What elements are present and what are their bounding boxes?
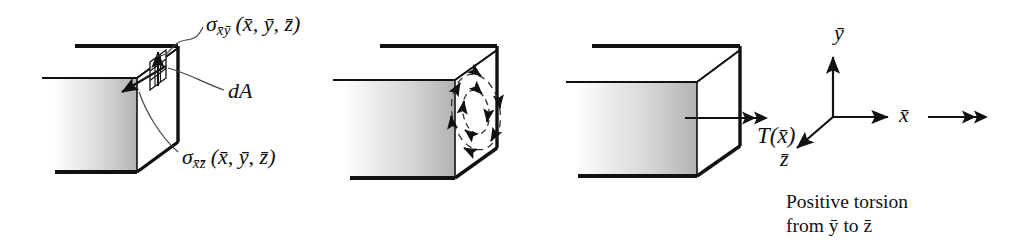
caption-line-1: Positive torsion <box>786 190 908 214</box>
sigma-xy-args: (x̄, ȳ, z̄) <box>236 11 301 36</box>
torque-symbol: T <box>757 123 770 148</box>
axis-label-z: z̄ <box>780 148 789 170</box>
sigma-xy-symbol: σ <box>206 11 217 36</box>
torque-args: (x̄) <box>770 123 796 148</box>
figure-canvas: σx̄ȳ(x̄, ȳ, z̄) dA σx̄z̄(x̄, ȳ, z̄) T… <box>0 0 1019 245</box>
bar-1-front-face <box>55 78 137 172</box>
bar-3-end-face <box>697 50 740 176</box>
axis-z <box>797 117 833 148</box>
label-dA: dA <box>228 80 252 102</box>
sigma-xy-subscript: x̄ȳ <box>217 22 231 38</box>
caption-line-2: from ȳ to z̄ <box>786 214 872 238</box>
bar-3-front-face <box>578 82 697 176</box>
sigma-xz-subscript: x̄z̄ <box>193 155 206 171</box>
sigma-xz-args: (x̄, ȳ, z̄) <box>211 144 276 169</box>
axis-label-x: x̄ <box>899 104 909 126</box>
label-torque: T(x̄) <box>757 124 795 147</box>
bar-3-group <box>566 46 768 176</box>
axis-torque-double-arrow <box>928 111 988 124</box>
axis-label-y: ȳ <box>834 22 844 44</box>
bar-2-group <box>333 46 506 178</box>
axes-group <box>797 57 988 148</box>
label-sigma-xy: σx̄ȳ(x̄, ȳ, z̄) <box>206 13 300 35</box>
bar-2-front-face <box>345 80 455 178</box>
bar-2-end-face <box>455 50 497 178</box>
label-sigma-xz: σx̄z̄(x̄, ȳ, z̄) <box>182 146 275 168</box>
sigma-xz-symbol: σ <box>182 144 193 169</box>
